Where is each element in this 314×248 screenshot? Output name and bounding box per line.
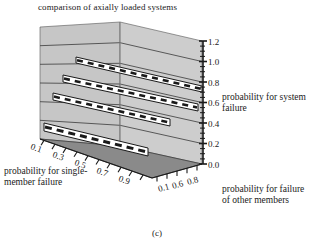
y-axis-tick-labels: 0.1 0.6 0.8 [157,174,200,194]
z-tick-label: 0.0 [208,160,220,170]
figure-caption: (c) [0,228,314,238]
figure-3d-surface-plot: comparison of axially loaded systems [0,0,314,248]
z-tick-label: 0.6 [208,98,220,108]
y-axis-title-text: probability for failure of other members [222,184,304,205]
x-tick-label: 0.1 [29,141,43,154]
z-tick-label: 0.4 [208,119,220,129]
z-tick-label: 0.8 [208,78,220,88]
z-axis-title-text: probability for system failure [222,92,306,113]
y-tick-label: 0.8 [186,174,200,187]
plot-canvas: 0.0 0.2 0.4 0.6 0.8 1.0 1.2 0.1 0.3 0.5 [0,0,314,248]
y-axis-title: probability for failure of other members [222,184,312,205]
x-axis-title-text: probability for single-member failure [4,166,87,187]
z-axis-tick-labels: 0.0 0.2 0.4 0.6 0.8 1.0 1.2 [208,37,220,170]
x-axis-title: probability for single-member failure [4,166,100,187]
z-axis-title: probability for system failure [222,92,310,113]
z-tick-label: 1.0 [208,57,220,67]
y-tick-label: 0.1 [157,181,171,194]
z-tick-label: 1.2 [208,37,219,47]
y-tick-label: 0.6 [171,178,185,191]
z-tick-label: 0.2 [208,139,219,149]
